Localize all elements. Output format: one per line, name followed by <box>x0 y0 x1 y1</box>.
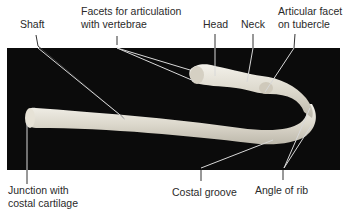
label-costal-groove: Costal groove <box>172 186 237 198</box>
label-facets-line1: Facets for articulation <box>81 5 181 17</box>
label-angle-of-rib: Angle of rib <box>255 184 308 196</box>
label-shaft: Shaft <box>20 18 45 30</box>
rib-head <box>190 66 204 84</box>
label-junction-line2: costal cartilage <box>8 197 78 209</box>
label-articular-line2: on tubercle <box>278 18 330 30</box>
label-neck: Neck <box>241 18 265 30</box>
label-facets-line2: with vertebrae <box>81 18 147 30</box>
label-head: Head <box>203 18 228 30</box>
label-junction-line1: Junction with <box>8 184 69 196</box>
label-articular-line1: Articular facet <box>278 5 342 17</box>
photo-background <box>7 48 340 170</box>
